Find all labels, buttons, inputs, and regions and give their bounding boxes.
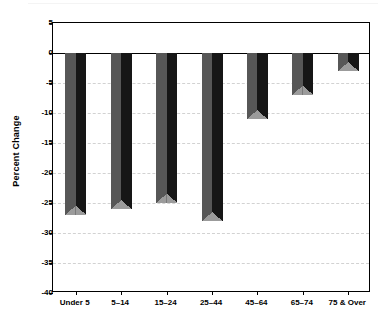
x-tick-mark [348,291,349,295]
x-tick-mark [121,291,122,295]
bar-chart: Percent Change 50-5-10-15-20-25-30-35-40… [0,0,382,322]
x-tick-label: 75 & Over [329,298,366,307]
x-tick-label: Under 5 [60,298,90,307]
y-tick-label: 0 [27,49,53,57]
y-tick-label: -10 [27,109,53,117]
y-tick-label: -15 [27,139,53,147]
plot-area: 50-5-10-15-20-25-30-35-40 [52,22,370,292]
y-tick-label: -40 [27,289,53,297]
y-axis-title: Percent Change [11,91,21,211]
y-tick-label: -30 [27,229,53,237]
bar-left-face [202,53,213,221]
bar-right-face [76,53,87,215]
x-tick-label: 5–14 [111,298,129,307]
bar-right-face [167,53,178,203]
bar-right-face [212,53,223,221]
y-tick-label: -35 [27,259,53,267]
bar [156,53,177,203]
gridline [53,263,369,264]
bar [292,53,313,95]
gridline [53,233,369,234]
bar [247,53,268,119]
bar-bottom-wedge [111,200,132,209]
bar-left-face [111,53,122,209]
bar [338,53,359,71]
y-tick-label: -20 [27,169,53,177]
bar-bottom-wedge [247,110,268,119]
bar [111,53,132,209]
bar-left-face [156,53,167,203]
scan-artifact-line [28,3,378,4]
x-tick-label: 15–24 [154,298,176,307]
x-tick-mark [212,291,213,295]
bar [65,53,86,215]
bar-bottom-wedge [338,62,359,71]
x-tick-mark [76,291,77,295]
bar-bottom-wedge [202,212,223,221]
bar-bottom-wedge [65,206,86,215]
x-tick-label: 65–74 [291,298,313,307]
x-tick-label: 25–44 [200,298,222,307]
x-tick-label: 45–64 [245,298,267,307]
y-tick-label: 5 [27,19,53,27]
x-tick-mark [257,291,258,295]
bar-left-face [65,53,76,215]
y-tick-label: -5 [27,79,53,87]
bar-bottom-wedge [292,86,313,95]
x-tick-mark [303,291,304,295]
x-tick-mark [167,291,168,295]
bar-right-face [121,53,132,209]
y-tick-label: -25 [27,199,53,207]
bar-bottom-wedge [156,194,177,203]
bar [202,53,223,221]
